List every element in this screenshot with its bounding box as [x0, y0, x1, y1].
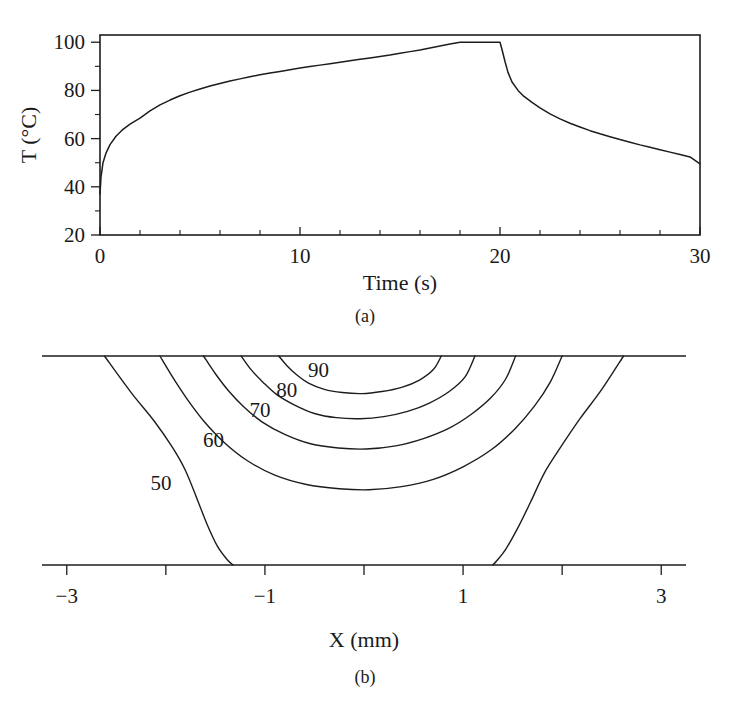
contour-label-70: 70 — [249, 398, 270, 422]
contour-line-60 — [160, 356, 562, 490]
y-axis-tick-labels: 20406080100 — [54, 30, 86, 247]
contour-label-90: 90 — [308, 358, 329, 382]
x-axis-tick-label: −3 — [56, 584, 78, 608]
x-axis-tick-label: −1 — [254, 584, 276, 608]
contour-label-60: 60 — [203, 428, 224, 452]
panel-b-contour-chart: −3−113 5060708090 X (mm) (b) — [0, 340, 730, 701]
contour-line-50 — [493, 356, 624, 565]
panel-a-temperature-time-chart: 0102030 20406080100 Time (s) T (°C) (a) — [0, 0, 730, 340]
contour-label-50: 50 — [150, 471, 171, 495]
figure-container: 0102030 20406080100 Time (s) T (°C) (a) … — [0, 0, 730, 701]
y-axis-ticks — [91, 42, 100, 235]
y-axis-tick-label: 80 — [64, 78, 85, 102]
x-axis-tick-label: 0 — [95, 244, 106, 268]
x-axis-tick-label: 30 — [690, 244, 711, 268]
panel-b-caption: (b) — [355, 667, 376, 688]
x-axis-tick-label: 3 — [656, 584, 667, 608]
y-axis-tick-label: 60 — [64, 127, 85, 151]
x-axis-tick-label: 20 — [490, 244, 511, 268]
y-axis-tick-label: 40 — [64, 175, 85, 199]
plot-area-border — [100, 35, 700, 235]
x-axis-tick-label: 10 — [290, 244, 311, 268]
contour-line-90 — [279, 356, 441, 394]
y-axis-title: T (°C) — [16, 107, 41, 164]
y-axis-tick-label: 100 — [54, 30, 86, 54]
contour-label-80: 80 — [276, 378, 297, 402]
y-axis-tick-label: 20 — [64, 223, 85, 247]
x-axis-title: X (mm) — [329, 627, 399, 652]
x-axis-tick-labels: −3−113 — [56, 584, 667, 608]
temperature-curve — [100, 42, 700, 194]
x-axis-ticks — [67, 565, 661, 575]
x-axis-title: Time (s) — [363, 270, 437, 295]
x-axis-ticks — [100, 227, 700, 235]
x-axis-tick-label: 1 — [458, 584, 469, 608]
panel-a-caption: (a) — [355, 306, 375, 327]
contour-lines — [104, 356, 623, 565]
panel-a-plot-frame — [100, 35, 700, 235]
x-axis-tick-labels: 0102030 — [95, 244, 711, 268]
contour-line-50 — [104, 356, 233, 565]
